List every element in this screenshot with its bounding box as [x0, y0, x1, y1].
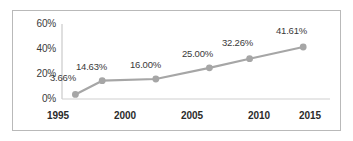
data-point-marker — [300, 44, 307, 51]
data-label-2013: 41.61% — [276, 26, 307, 36]
data-label-1998: 14.63% — [76, 62, 107, 72]
data-point-marker — [99, 77, 106, 84]
data-label-2002: 16.00% — [130, 60, 161, 70]
data-label-2009: 32.26% — [222, 38, 253, 48]
data-point-marker — [206, 64, 213, 71]
x-tick-label-1995: 1995 — [36, 110, 80, 121]
data-point-marker — [152, 76, 159, 83]
data-point-marker — [72, 91, 79, 98]
y-tick-label-0: 0% — [24, 93, 56, 104]
x-tick-label-2005: 2005 — [170, 110, 214, 121]
x-tick-label-2015: 2015 — [288, 110, 332, 121]
data-point-marker — [246, 55, 253, 62]
y-tick-label-40: 40% — [24, 43, 56, 54]
data-label-1996: 3.66% — [50, 73, 76, 83]
y-tick-label-60: 60% — [24, 18, 56, 29]
x-tick-label-2010: 2010 — [237, 110, 281, 121]
data-label-2006: 25.00% — [182, 49, 213, 59]
x-tick-label-2000: 2000 — [103, 110, 147, 121]
